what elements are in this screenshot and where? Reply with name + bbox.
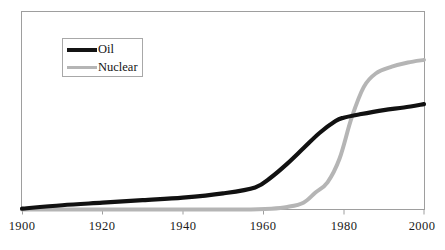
x-tick-label-1920: 1920 [89, 219, 116, 234]
series-line-nuclear [22, 60, 424, 210]
chart-legend: Oil Nuclear [62, 38, 143, 77]
chart-container: Oil Nuclear 1900 1920 1940 1960 1980 200… [0, 0, 445, 250]
x-tick-label-1900: 1900 [9, 219, 36, 234]
x-tick-label-1940: 1940 [170, 219, 197, 234]
legend-item-nuclear: Nuclear [63, 58, 142, 77]
x-tick-label-1960: 1960 [250, 219, 277, 234]
x-tick-label-2000: 2000 [409, 219, 436, 234]
legend-label-nuclear: Nuclear [98, 61, 138, 74]
legend-swatch-nuclear [67, 66, 97, 70]
legend-item-oil: Oil [63, 40, 142, 59]
legend-swatch-oil [67, 48, 97, 52]
legend-label-oil: Oil [98, 43, 114, 56]
x-tick-label-1980: 1980 [331, 219, 358, 234]
series-line-oil [22, 104, 424, 209]
